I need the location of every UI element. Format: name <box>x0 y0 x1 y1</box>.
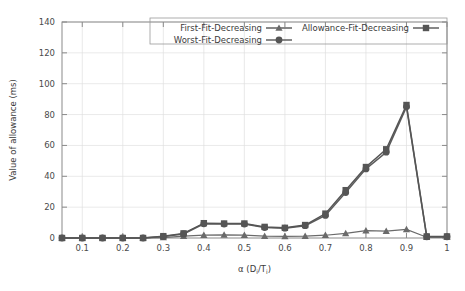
marker-square <box>383 146 389 152</box>
series-line-circle <box>62 107 447 238</box>
marker-square <box>363 164 369 170</box>
x-axis-label: α (Di/Ti) <box>238 264 271 275</box>
marker-circle <box>276 37 283 44</box>
allowance-line-chart: 0204060801001201400.10.20.30.40.50.60.70… <box>0 0 465 291</box>
x-tick-label: 0.7 <box>319 243 333 253</box>
marker-square <box>424 233 430 239</box>
marker-square <box>342 187 348 193</box>
x-tick-label: 1 <box>444 243 449 253</box>
marker-square <box>79 235 85 241</box>
marker-square <box>444 233 450 239</box>
plot-frame <box>62 22 447 238</box>
legend-label: Allowance-Fit-Decreasing <box>302 23 409 33</box>
legend-label: First-Fit-Decreasing <box>180 23 262 33</box>
marker-square <box>99 235 105 241</box>
marker-square <box>322 210 328 216</box>
y-tick-label: 20 <box>44 202 55 212</box>
x-tick-label: 0.4 <box>197 243 211 253</box>
y-tick-label: 60 <box>44 140 55 150</box>
y-tick-label: 80 <box>44 110 55 120</box>
x-tick-label: 0.8 <box>359 243 373 253</box>
marker-square <box>120 235 126 241</box>
y-tick-label: 40 <box>44 171 55 181</box>
marker-square <box>59 235 65 241</box>
legend-label: Worst-Fit-Decreasing <box>174 35 262 45</box>
marker-square <box>282 225 288 231</box>
x-tick-label: 0.9 <box>400 243 414 253</box>
x-tick-label: 0.3 <box>157 243 171 253</box>
marker-square <box>403 102 409 108</box>
y-tick-label: 0 <box>50 233 55 243</box>
y-tick-label: 140 <box>39 17 55 27</box>
marker-square <box>140 235 146 241</box>
marker-square <box>160 233 166 239</box>
series-line-square <box>62 105 447 238</box>
marker-square <box>423 25 429 31</box>
marker-square <box>302 222 308 228</box>
x-tick-label: 0.5 <box>238 243 252 253</box>
chart-container: 0204060801001201400.10.20.30.40.50.60.70… <box>0 0 465 291</box>
x-tick-label: 0.6 <box>278 243 292 253</box>
y-axis-label: Value of allowance (ms) <box>8 79 18 181</box>
x-tick-label: 0.2 <box>116 243 130 253</box>
marker-square <box>261 224 267 230</box>
marker-square <box>241 220 247 226</box>
marker-square <box>180 230 186 236</box>
marker-triangle <box>403 226 410 232</box>
y-tick-label: 120 <box>39 48 55 58</box>
x-tick-label: 0.1 <box>75 243 89 253</box>
marker-square <box>221 220 227 226</box>
y-tick-label: 100 <box>39 79 55 89</box>
marker-square <box>201 220 207 226</box>
